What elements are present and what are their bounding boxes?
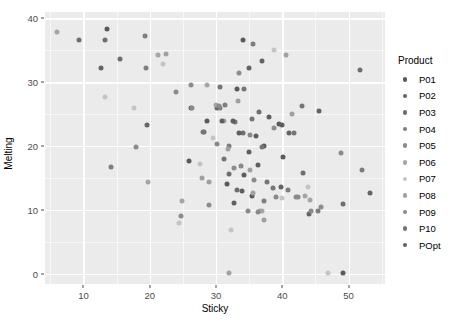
gridline-horizontal bbox=[45, 82, 385, 83]
data-point bbox=[295, 195, 300, 200]
data-point bbox=[105, 26, 110, 31]
data-point bbox=[316, 108, 321, 113]
legend-item-p08[interactable]: P08 bbox=[398, 187, 441, 204]
x-tick-label: 20 bbox=[144, 290, 155, 301]
y-tick-mark bbox=[41, 273, 44, 274]
legend-item-p10[interactable]: P10 bbox=[398, 220, 441, 237]
gridline-vertical-minor bbox=[117, 12, 118, 284]
data-point bbox=[252, 177, 257, 182]
legend-title: Product bbox=[398, 55, 441, 66]
data-point bbox=[270, 185, 275, 190]
data-point bbox=[190, 106, 195, 111]
data-point bbox=[359, 167, 364, 172]
legend-swatch-dot-icon bbox=[403, 210, 408, 215]
data-point bbox=[103, 38, 108, 43]
data-point bbox=[215, 142, 220, 147]
legend-item-popt[interactable]: POpt bbox=[398, 237, 441, 254]
legend-key bbox=[398, 222, 412, 236]
data-point bbox=[230, 118, 235, 123]
legend-key bbox=[398, 105, 412, 119]
data-point bbox=[77, 38, 82, 43]
data-point bbox=[255, 163, 260, 168]
legend-item-p02[interactable]: P02 bbox=[398, 88, 441, 105]
legend-item-label: P06 bbox=[419, 157, 436, 168]
data-point bbox=[200, 176, 205, 181]
gridline-horizontal-minor bbox=[45, 242, 385, 243]
legend-items: P01P02P03P04P05P06P07P08P09P10POpt bbox=[398, 71, 441, 254]
legend-item-p04[interactable]: P04 bbox=[398, 121, 441, 138]
data-point bbox=[338, 151, 343, 156]
legend-item-p07[interactable]: P07 bbox=[398, 171, 441, 188]
data-point bbox=[284, 53, 289, 58]
x-tick-label: 40 bbox=[277, 290, 288, 301]
data-point bbox=[280, 195, 285, 200]
gridline-vertical-minor bbox=[249, 12, 250, 284]
legend-item-p05[interactable]: P05 bbox=[398, 137, 441, 154]
legend-item-label: P07 bbox=[419, 173, 436, 184]
legend-key bbox=[398, 122, 412, 136]
legend-item-label: P01 bbox=[419, 74, 436, 85]
legend-item-p09[interactable]: P09 bbox=[398, 204, 441, 221]
data-point bbox=[251, 191, 256, 196]
legend-item-p03[interactable]: P03 bbox=[398, 104, 441, 121]
y-tick-label: 0 bbox=[8, 268, 38, 279]
gridline-horizontal-minor bbox=[45, 50, 385, 51]
legend-swatch-dot-icon bbox=[403, 94, 408, 99]
legend-key bbox=[398, 238, 412, 252]
data-point bbox=[300, 104, 305, 109]
data-point bbox=[251, 41, 256, 46]
data-point bbox=[265, 179, 270, 184]
data-point bbox=[308, 198, 313, 203]
legend-key bbox=[398, 188, 412, 202]
gridline-vertical-minor bbox=[183, 12, 184, 284]
data-point bbox=[231, 200, 236, 205]
legend-key bbox=[398, 155, 412, 169]
data-point bbox=[160, 61, 165, 66]
y-tick-mark bbox=[41, 209, 44, 210]
legend-swatch-dot-icon bbox=[403, 160, 408, 165]
gridline-vertical-minor bbox=[382, 12, 383, 284]
y-tick-mark bbox=[41, 18, 44, 19]
data-point bbox=[178, 214, 183, 219]
data-point bbox=[278, 184, 283, 189]
y-axis-title: Melting bbox=[3, 124, 14, 184]
data-point bbox=[156, 53, 161, 58]
legend-item-label: P10 bbox=[419, 223, 436, 234]
data-point bbox=[286, 131, 291, 136]
data-point bbox=[186, 159, 191, 164]
data-point bbox=[262, 217, 267, 222]
data-point bbox=[367, 190, 372, 195]
legend-key bbox=[398, 139, 412, 153]
data-point bbox=[200, 130, 205, 135]
legend-item-label: P05 bbox=[419, 140, 436, 151]
data-point bbox=[217, 85, 222, 90]
gridline-horizontal bbox=[45, 18, 385, 19]
x-tick-mark bbox=[83, 285, 84, 288]
data-point bbox=[226, 271, 231, 276]
gridline-vertical bbox=[83, 12, 84, 284]
legend-item-p01[interactable]: P01 bbox=[398, 71, 441, 88]
data-point bbox=[237, 131, 242, 136]
data-point bbox=[205, 119, 210, 124]
data-point bbox=[235, 86, 240, 91]
y-tick-label: 40 bbox=[8, 13, 38, 24]
data-point bbox=[290, 112, 295, 117]
x-axis-title: Sticky bbox=[45, 303, 385, 314]
data-point bbox=[306, 184, 311, 189]
data-point bbox=[204, 83, 209, 88]
legend-swatch-dot-icon bbox=[403, 177, 408, 182]
data-point bbox=[131, 106, 136, 111]
gridline-horizontal-minor bbox=[45, 114, 385, 115]
legend-item-label: P03 bbox=[419, 107, 436, 118]
legend-item-p06[interactable]: P06 bbox=[398, 154, 441, 171]
data-point bbox=[292, 130, 297, 135]
data-point bbox=[179, 198, 184, 203]
data-point bbox=[341, 270, 346, 275]
data-point bbox=[272, 126, 277, 131]
data-point bbox=[221, 156, 226, 161]
data-point bbox=[303, 193, 308, 198]
data-point bbox=[309, 208, 314, 213]
data-point bbox=[210, 136, 215, 141]
legend-swatch-dot-icon bbox=[403, 143, 408, 148]
gridline-vertical-minor bbox=[50, 12, 51, 284]
